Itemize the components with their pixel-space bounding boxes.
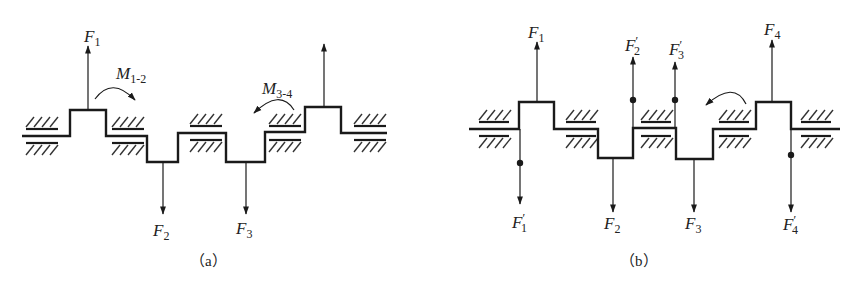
label-a-F2: F2	[152, 221, 169, 243]
point-F3-prime	[672, 97, 678, 103]
label-a-M34: M3-4	[261, 79, 292, 101]
moment-arrow-M12	[95, 88, 135, 100]
label-b-F2p: F′2	[624, 34, 640, 58]
label-b-F3: F3	[684, 214, 701, 236]
label-b-F2: F2	[603, 214, 620, 236]
point-F2-prime	[630, 97, 636, 103]
label-b-F3p: F′3	[668, 38, 684, 62]
point-F1-prime	[517, 160, 523, 166]
label-a-F1: F1	[83, 27, 100, 49]
label-a-F3: F3	[235, 219, 252, 241]
label-b-F4: F4	[763, 20, 780, 42]
label-b-F4p: F′4	[782, 213, 798, 237]
moment-arrow-M34	[254, 100, 294, 113]
caption-b: （b）	[620, 253, 658, 269]
label-b-F1: F1	[527, 23, 544, 45]
crankshaft-force-diagram: F1 M1-2 M3-4 F2 F3 （a）	[0, 0, 868, 290]
caption-a: （a）	[190, 253, 227, 269]
point-F4-prime	[788, 152, 794, 158]
label-b-F1p: F′1	[511, 211, 527, 235]
panel-a: F1 M1-2 M3-4 F2 F3 （a）	[22, 27, 387, 269]
moment-arrow-b	[706, 92, 746, 105]
panel-b: F1 F′2 F′3 F4 F′1 F2 F3 F′4 （b）	[469, 20, 840, 269]
crankshaft-b	[469, 102, 840, 159]
label-a-M12: M1-2	[115, 64, 146, 86]
